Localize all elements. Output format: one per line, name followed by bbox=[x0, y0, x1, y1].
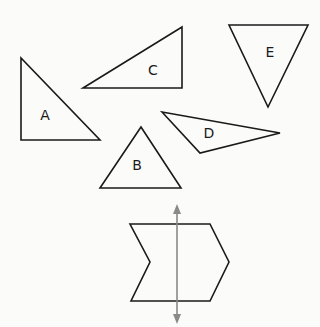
chevron-figure bbox=[130, 224, 229, 301]
arrow-down-icon bbox=[173, 314, 181, 324]
symmetry-line bbox=[173, 204, 181, 324]
triangle-a: A bbox=[21, 58, 100, 140]
triangle-c-outline bbox=[83, 27, 182, 88]
triangle-a-label: A bbox=[40, 107, 50, 123]
triangle-a-outline bbox=[21, 58, 100, 140]
triangle-d-label: D bbox=[204, 125, 215, 141]
chevron-outline bbox=[130, 224, 229, 301]
triangle-e-label: E bbox=[266, 44, 275, 60]
triangle-d-outline bbox=[162, 112, 280, 153]
arrow-up-icon bbox=[173, 204, 181, 214]
triangle-c: C bbox=[83, 27, 182, 88]
triangle-e: E bbox=[229, 25, 308, 107]
triangle-d: D bbox=[162, 112, 280, 153]
triangle-b: B bbox=[100, 127, 181, 188]
shapes-diagram: A B C D E bbox=[0, 0, 320, 327]
triangle-b-label: B bbox=[132, 157, 142, 173]
triangle-e-outline bbox=[229, 25, 308, 107]
triangle-c-label: C bbox=[148, 62, 158, 78]
